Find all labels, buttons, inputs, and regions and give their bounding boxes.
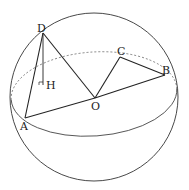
segment-CB [120,57,165,75]
label-D: D [37,22,46,35]
label-C: C [117,45,125,58]
segment-OC [95,57,120,98]
label-O: O [91,100,100,113]
sphere-diagram: D H A O C B [0,0,189,190]
equator-back-dashed [8,46,177,99]
right-angle-marker-H [39,82,43,85]
label-H: H [46,79,56,92]
segment-OB [95,75,165,98]
label-A: A [19,120,29,133]
label-B: B [162,64,170,77]
segment-AO [25,98,95,118]
diagram-canvas: D H A O C B [0,0,189,190]
